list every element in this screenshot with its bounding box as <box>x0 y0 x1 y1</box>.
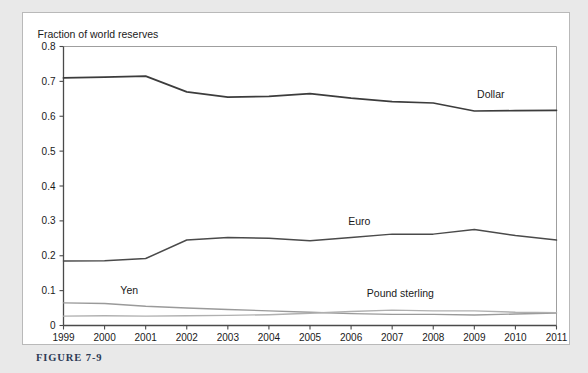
y-tick-label: 0.6 <box>42 111 56 122</box>
y-tick-label: 0.8 <box>42 41 56 52</box>
figure-caption: FIGURE 7-9 <box>36 352 102 363</box>
y-tick-label: 0.7 <box>42 76 56 87</box>
x-tick-label: 2009 <box>463 332 486 343</box>
y-tick-label: 0.1 <box>42 285 56 296</box>
x-tick-label: 2003 <box>217 332 240 343</box>
x-tick-label: 2001 <box>135 332 158 343</box>
x-tick-label: 2000 <box>93 332 116 343</box>
page-background: 00.10.20.30.40.50.60.70.8199920002001200… <box>0 0 588 373</box>
reserves-line-chart: 00.10.20.30.40.50.60.70.8199920002001200… <box>0 0 588 373</box>
x-tick-label: 2008 <box>422 332 445 343</box>
x-tick-label: 2006 <box>340 332 363 343</box>
chart-axis-title: Fraction of world reserves <box>38 28 159 40</box>
series-label-pound-sterling: Pound sterling <box>367 287 434 299</box>
y-tick-label: 0.3 <box>42 215 56 226</box>
x-tick-label: 2005 <box>299 332 322 343</box>
x-tick-label: 2007 <box>381 332 404 343</box>
series-label-dollar: Dollar <box>477 88 505 100</box>
y-tick-label: 0.5 <box>42 146 56 157</box>
y-tick-label: 0.4 <box>42 181 56 192</box>
x-tick-label: 1999 <box>52 332 75 343</box>
y-tick-label: 0.2 <box>42 250 56 261</box>
series-label-euro: Euro <box>348 215 370 227</box>
y-tick-label: 0 <box>50 320 56 331</box>
x-tick-label: 2011 <box>546 332 568 343</box>
series-line-euro <box>64 230 557 261</box>
series-label-yen: Yen <box>120 284 138 296</box>
x-tick-label: 2010 <box>504 332 527 343</box>
x-tick-label: 2004 <box>258 332 281 343</box>
chart-container: 00.10.20.30.40.50.60.70.8199920002001200… <box>0 0 588 373</box>
x-tick-label: 2002 <box>176 332 199 343</box>
